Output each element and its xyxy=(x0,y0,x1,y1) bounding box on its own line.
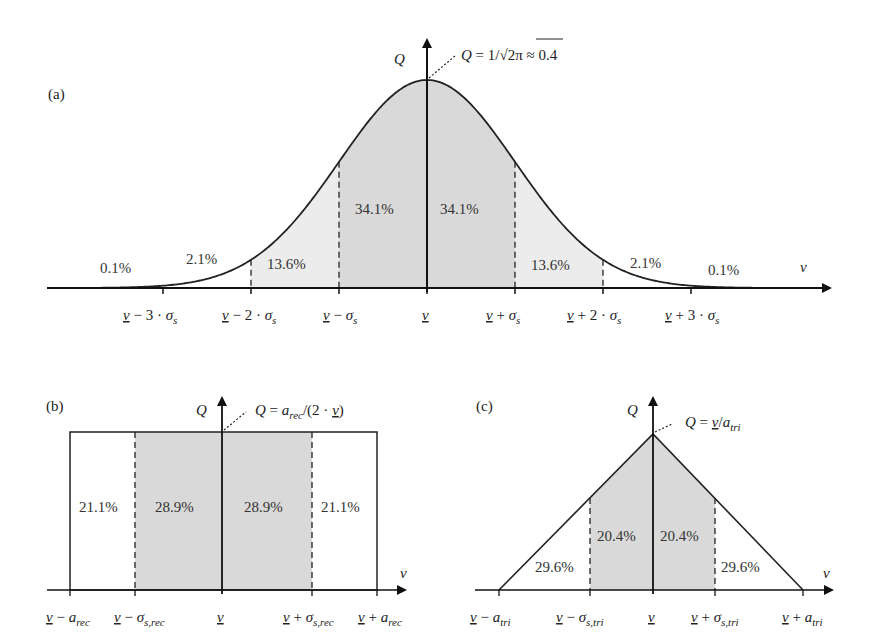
peak-leader-line xyxy=(655,424,672,432)
pct-outer-left: 29.6% xyxy=(535,559,574,575)
tick-minus-sigma: ν − σs,rec xyxy=(114,609,165,628)
figure-canvas: (a) Q ν Q = 1/√2π ≈ 0.4 0.1% 2.1% 13.6% … xyxy=(0,0,879,644)
panel-b-label: (b) xyxy=(46,398,64,415)
pct-center-right: 34.1% xyxy=(440,201,479,217)
tick-minus-2-sigma: ν − 2 · σs xyxy=(222,307,276,326)
x-tick-labels: ν − 3 · σs ν − 2 · σs ν − σs ν ν + σs ν … xyxy=(123,307,719,326)
peak-annotation: Q = ν/atri xyxy=(685,414,741,433)
x-tick-labels: ν − arec ν − σs,rec ν ν + σs,rec ν + are… xyxy=(46,609,402,628)
pct-2sigma-left: 2.1% xyxy=(186,251,217,267)
pct-center-right: 28.9% xyxy=(244,499,283,515)
y-axis-label: Q xyxy=(394,51,405,67)
pct-outer-left: 21.1% xyxy=(79,499,118,515)
pct-center-left: 28.9% xyxy=(155,499,194,515)
peak-annotation: Q = 1/√2π ≈ 0.4 xyxy=(461,39,563,63)
peak-leader-line xyxy=(224,412,246,430)
svg-text:Q = 1/√2π ≈ 0.4: Q = 1/√2π ≈ 0.4 xyxy=(461,47,558,63)
pct-center-left: 20.4% xyxy=(597,528,636,544)
panel-c-triangular-distribution: (c) Q ν Q = ν/atri 29.6% 20.4% 20.4% 29.… xyxy=(470,398,832,628)
tick-plus-a: ν + arec xyxy=(358,609,402,628)
tick-plus-2-sigma: ν + 2 · σs xyxy=(567,307,621,326)
panel-b-rectangular-distribution: (b) Q ν Q = arec/(2 · ν) 21.1% 28.9% 28.… xyxy=(46,398,407,628)
tick-plus-1-sigma: ν + σs xyxy=(486,307,520,326)
x-tick-labels: ν − atri ν − σs,tri ν ν + σs,tri ν + atr… xyxy=(470,609,823,628)
peak-leader-line xyxy=(429,56,455,78)
pct-1sigma-right: 13.6% xyxy=(531,257,570,273)
x-axis-label: ν xyxy=(800,259,807,275)
pct-outer-right: 29.6% xyxy=(721,559,760,575)
pct-1sigma-left: 13.6% xyxy=(267,256,306,272)
tick-mean: ν xyxy=(422,307,429,323)
x-axis-label: ν xyxy=(400,565,407,581)
y-axis-label: Q xyxy=(196,402,207,418)
tick-minus-1-sigma: ν − σs xyxy=(323,307,357,326)
x-axis-ticks xyxy=(70,590,377,596)
tick-plus-3-sigma: ν + 3 · σs xyxy=(665,307,719,326)
tick-minus-sigma: ν − σs,tri xyxy=(556,609,603,628)
panel-c-label: (c) xyxy=(476,398,493,415)
tick-plus-a: ν + atri xyxy=(782,609,823,628)
pct-2sigma-right: 2.1% xyxy=(630,255,661,271)
pct-tail-left: 0.1% xyxy=(100,260,131,276)
peak-annotation: Q = arec/(2 · ν) xyxy=(255,402,344,421)
tick-mean: ν xyxy=(217,609,224,625)
tick-plus-sigma: ν + σs,rec xyxy=(283,609,334,628)
tick-minus-3-sigma: ν − 3 · σs xyxy=(123,307,177,326)
tick-mean: ν xyxy=(648,609,655,625)
pct-outer-right: 21.1% xyxy=(321,499,360,515)
y-axis-label: Q xyxy=(627,402,638,418)
tick-plus-sigma: ν + σs,tri xyxy=(691,609,738,628)
panel-a-normal-distribution: (a) Q ν Q = 1/√2π ≈ 0.4 0.1% 2.1% 13.6% … xyxy=(47,39,830,326)
pct-tail-right: 0.1% xyxy=(708,262,739,278)
pct-center-right: 20.4% xyxy=(660,528,699,544)
panel-a-label: (a) xyxy=(48,86,65,103)
x-axis-label: ν xyxy=(823,565,830,581)
x-axis-ticks xyxy=(499,590,803,596)
tick-minus-a: ν − arec xyxy=(46,609,90,628)
tick-minus-a: ν − atri xyxy=(470,609,511,628)
pct-center-left: 34.1% xyxy=(355,201,394,217)
